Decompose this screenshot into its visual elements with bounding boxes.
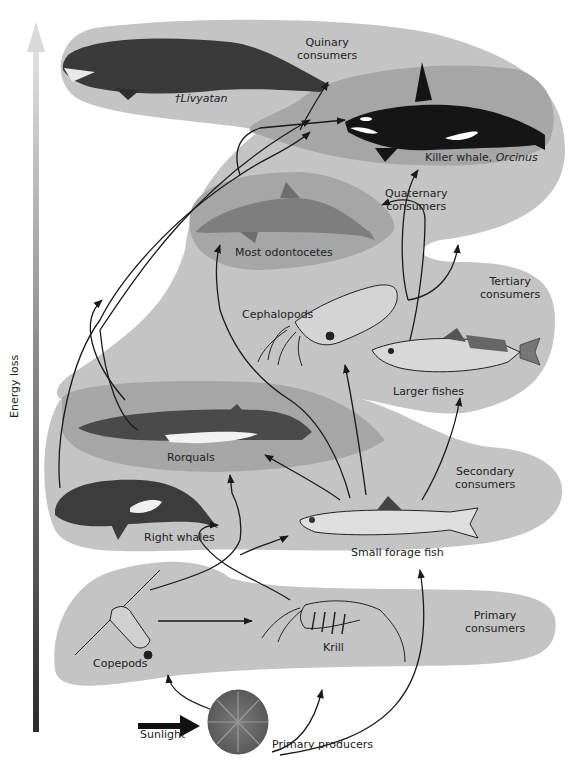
livyatan-label: †Livyatan xyxy=(175,92,227,105)
level-secondary-line1: Secondary xyxy=(455,465,515,478)
level-tertiary-line2: consumers xyxy=(480,288,540,301)
level-secondary: Secondary consumers xyxy=(455,465,515,491)
livyatan-name: Livyatan xyxy=(181,92,228,105)
killer-whale-genus: Orcinus xyxy=(496,151,538,164)
krill-label: Krill xyxy=(323,641,344,654)
level-secondary-line2: consumers xyxy=(455,478,515,491)
copepods-label: Copepods xyxy=(93,657,148,670)
larger-fishes-label: Larger fishes xyxy=(393,385,464,398)
right-whales-label: Right whales xyxy=(144,531,215,544)
sunlight-label: Sunlight xyxy=(140,728,185,741)
rorquals-label: Rorquals xyxy=(167,451,215,464)
energy-loss-axis xyxy=(27,22,45,732)
odontocetes-label: Most odontocetes xyxy=(235,246,333,259)
forage-fish-label: Small forage fish xyxy=(351,546,444,559)
level-tertiary-line1: Tertiary xyxy=(480,275,540,288)
level-quinary-line1: Quinary xyxy=(297,36,357,49)
level-primary-line2: consumers xyxy=(465,622,525,635)
level-quinary-line2: consumers xyxy=(297,49,357,62)
level-quinary: Quinary consumers xyxy=(297,36,357,62)
cephalopods-label: Cephalopods xyxy=(242,308,313,321)
level-tertiary: Tertiary consumers xyxy=(480,275,540,301)
level-quaternary-line2: consumers xyxy=(385,200,448,213)
diatom-illustration xyxy=(208,690,268,754)
food-web-diagram: Energy loss Quinary consumers Quaternary… xyxy=(0,0,574,765)
energy-loss-label: Energy loss xyxy=(8,355,21,418)
level-primary-line1: Primary xyxy=(465,609,525,622)
level-quaternary-line1: Quaternary xyxy=(385,187,448,200)
level-quaternary: Quaternary consumers xyxy=(385,187,448,213)
killer-whale-name: Killer whale, xyxy=(425,151,496,164)
level-producers-label: Primary producers xyxy=(272,738,373,751)
level-primary: Primary consumers xyxy=(465,609,525,635)
killer-whale-label: Killer whale, Orcinus xyxy=(425,151,538,164)
